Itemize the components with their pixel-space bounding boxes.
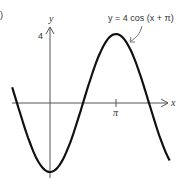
y-tick-label: 4 [38,31,43,41]
chart-canvas: ) y 4 π x y = 4 cos (x + π) [0,0,182,193]
x-tick-label: π [113,107,119,118]
figure-label-fragment: ) [0,10,3,20]
annotation-arrowhead-icon [130,37,135,42]
annotation-arrow [131,26,142,41]
equation-label: y = 4 cos (x + π) [108,13,174,23]
x-axis-label: x [170,97,176,108]
y-axis-label: y [48,13,54,24]
